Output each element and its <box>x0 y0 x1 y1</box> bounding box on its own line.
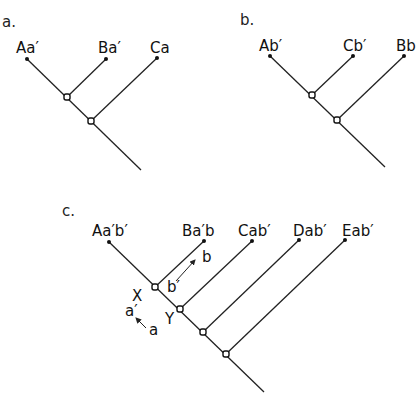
taxon-label: Eab′ <box>342 222 374 240</box>
taxon-label: Ba′ <box>98 39 121 57</box>
main-branch <box>270 56 385 167</box>
char-state-b: b <box>202 248 212 266</box>
taxon-label: Ca <box>150 39 170 57</box>
taxon-label: Cb′ <box>343 37 367 55</box>
branch <box>180 241 252 309</box>
branch <box>337 56 404 120</box>
tip-dot <box>250 239 254 243</box>
tip-dot <box>268 54 272 58</box>
node-marker-y <box>177 306 183 312</box>
node-marker <box>64 94 70 100</box>
branch <box>67 59 106 97</box>
panel-b-label: b. <box>240 11 254 29</box>
node-marker <box>200 329 206 335</box>
char-state-a: a <box>149 321 158 339</box>
node-marker <box>309 92 315 98</box>
branch <box>226 240 345 354</box>
cladogram-figure: a. Aa′ Ba′ Ca b. Ab′ Cb′ Bb c. Aa′b′ Ba′… <box>0 0 418 394</box>
char-state-b-prime: b′ <box>167 278 181 296</box>
taxon-label: Ba′b <box>182 222 214 240</box>
node-marker <box>334 117 340 123</box>
tip-dot <box>25 57 29 61</box>
branch <box>203 240 299 332</box>
panel-a: a. Aa′ Ba′ Ca <box>2 13 170 170</box>
tip-dot <box>343 238 347 242</box>
node-label-y: Y <box>164 310 175 328</box>
tip-dot <box>202 239 206 243</box>
taxon-label: Ab′ <box>259 37 283 55</box>
node-marker-x <box>152 284 158 290</box>
main-branch <box>27 59 141 170</box>
taxon-label: Aa′b′ <box>92 222 128 240</box>
panel-b: b. Ab′ Cb′ Bb <box>240 11 416 167</box>
panel-c-label: c. <box>62 202 75 220</box>
arrow-a-to-a-prime <box>136 318 146 328</box>
char-state-a-prime: a′ <box>125 302 138 320</box>
taxon-label: Dab′ <box>293 222 327 240</box>
taxon-label: Aa′ <box>16 39 39 57</box>
taxon-label: Cab′ <box>238 222 271 240</box>
tip-dot <box>297 238 301 242</box>
panel-c: c. Aa′b′ Ba′b Cab′ Dab′ Eab′ b b′ X Y a′… <box>62 202 374 392</box>
tip-dot <box>104 57 108 61</box>
taxon-label: Bb <box>396 37 416 55</box>
tip-dot <box>351 54 355 58</box>
node-marker <box>88 118 94 124</box>
panel-a-label: a. <box>2 13 16 31</box>
tip-dot <box>107 240 111 244</box>
branch <box>312 56 353 95</box>
tip-dot <box>155 56 159 60</box>
tip-dot <box>402 54 406 58</box>
branch <box>91 58 157 121</box>
node-marker <box>223 351 229 357</box>
